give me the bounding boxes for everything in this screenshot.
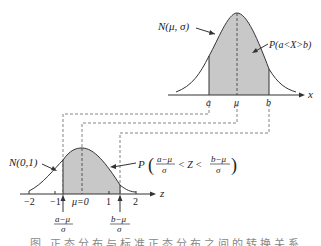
figure-caption: 图 正态分布与标准正态分布之间的转换关系 xyxy=(30,238,305,246)
top-shaded-region xyxy=(209,13,269,95)
arrow-up-icon xyxy=(118,195,123,201)
z-axis-label: z xyxy=(159,187,165,199)
bottom-shaded-region xyxy=(63,148,120,194)
x-axis-label: x xyxy=(307,88,313,100)
region-lower-denominator: σ xyxy=(162,165,167,175)
tick-zero: μ=0 xyxy=(71,196,89,207)
marker-a-numerator: a−μ xyxy=(55,214,71,224)
arrow-up-icon xyxy=(61,195,66,201)
region-lower-numerator: a−μ xyxy=(157,154,173,164)
marker-b-numerator: b−μ xyxy=(111,214,127,224)
tick-a: a xyxy=(206,97,211,108)
connector-b xyxy=(120,104,269,200)
close-paren: ) xyxy=(231,155,237,176)
region-inequality: < Z < xyxy=(178,159,202,170)
bottom-distribution: z −2 −1 μ=0 1 2 a−μ σ b−μ σ N(0,1) P ( a… xyxy=(8,148,237,234)
connector-mu xyxy=(82,104,237,150)
region-upper-denominator: σ xyxy=(216,165,221,175)
normal-transform-diagram: x a μ b N(μ, σ) P(a<X>b) z −2 −1 μ=0 1 xyxy=(0,0,321,246)
bottom-curve-label: N(0,1) xyxy=(8,156,38,169)
tick-neg1: −1 xyxy=(50,196,61,207)
arrow-icon xyxy=(209,30,215,35)
z-axis-arrow-icon xyxy=(150,192,156,197)
marker-b-denominator: σ xyxy=(117,224,122,234)
arrow-icon xyxy=(110,164,116,169)
tick-mu: μ xyxy=(233,97,239,108)
bottom-region-label-p: P xyxy=(137,158,145,170)
marker-a-denominator: σ xyxy=(61,224,66,234)
top-distribution: x a μ b N(μ, σ) P(a<X>b) xyxy=(157,13,313,108)
tick-neg2: −2 xyxy=(24,196,35,207)
tick-2: 2 xyxy=(133,196,138,207)
top-curve-label: N(μ, σ) xyxy=(157,20,189,33)
tick-1: 1 xyxy=(106,196,111,207)
top-region-label: P(a<X>b) xyxy=(268,39,312,51)
x-axis-arrow-icon xyxy=(299,93,305,98)
tick-b: b xyxy=(266,97,271,108)
region-upper-numerator: b−μ xyxy=(211,154,227,164)
open-paren: ( xyxy=(148,155,154,176)
